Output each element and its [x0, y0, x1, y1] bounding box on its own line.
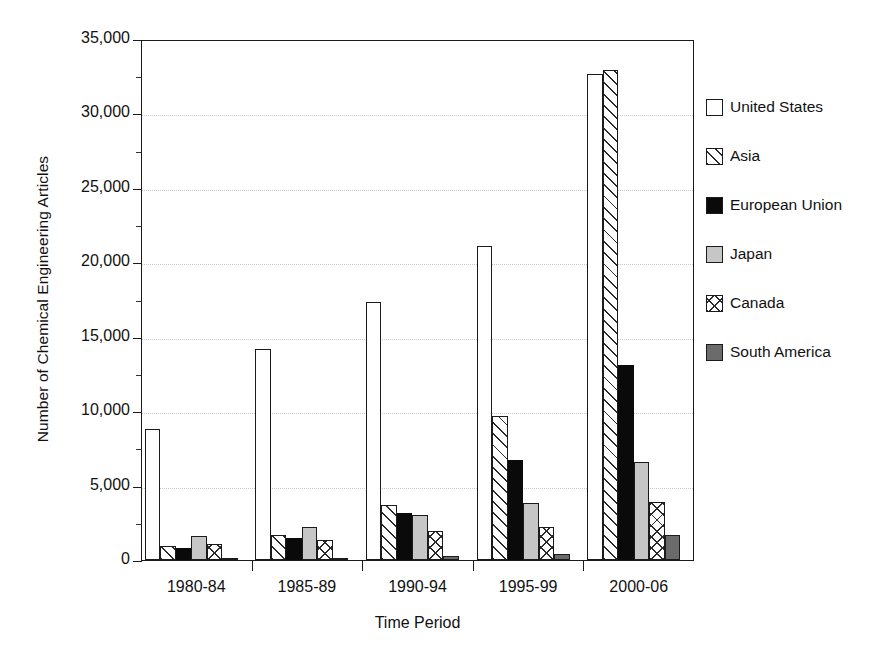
bar-japan-1985-89[interactable] [302, 527, 318, 560]
legend-label: Asia [730, 147, 760, 165]
bar-asia-1985-89[interactable] [271, 535, 287, 560]
y-axis-tick-label: 5,000 [90, 476, 130, 494]
x-axis-tick-label: 2000-06 [569, 578, 709, 596]
y-axis-tick-label: 10,000 [81, 401, 130, 419]
legend-label: Japan [730, 245, 772, 263]
bar-european-union-1985-89[interactable] [286, 538, 302, 560]
bar-european-union-1990-94[interactable] [397, 513, 413, 560]
bar-united-states-1980-84[interactable] [145, 429, 161, 560]
chart-legend: United StatesAsiaEuropean UnionJapanCana… [706, 96, 842, 390]
bar-european-union-1995-99[interactable] [508, 460, 524, 560]
x-axis-tick [473, 561, 474, 571]
legend-item-united-states[interactable]: United States [706, 96, 842, 118]
bar-japan-1995-99[interactable] [523, 503, 539, 560]
legend-swatch-asia-icon [706, 148, 723, 165]
bar-south-america-1990-94[interactable] [443, 556, 459, 560]
bar-european-union-1980-84[interactable] [176, 548, 192, 560]
x-axis-tick [583, 561, 584, 571]
plot-area [141, 40, 694, 561]
x-axis-tick [252, 561, 253, 571]
legend-swatch-south-america-icon [706, 344, 723, 361]
bar-canada-1990-94[interactable] [428, 531, 444, 560]
bar-united-states-1995-99[interactable] [477, 246, 493, 560]
bar-group-1980-84 [142, 41, 253, 560]
legend-swatch-united-states-icon [706, 99, 723, 116]
bar-group-2000-06 [584, 41, 695, 560]
bar-united-states-1985-89[interactable] [255, 349, 271, 560]
chart-page: Number of Chemical Engineering Articles … [0, 0, 878, 656]
y-axis-tick-label: 0 [121, 550, 130, 568]
bar-european-union-2000-06[interactable] [618, 365, 634, 560]
bar-united-states-2000-06[interactable] [587, 74, 603, 560]
legend-label: Canada [730, 294, 784, 312]
bar-group-1990-94 [363, 41, 474, 560]
legend-swatch-european-union-icon [706, 197, 723, 214]
bar-canada-1985-89[interactable] [317, 540, 333, 560]
legend-item-european-union[interactable]: European Union [706, 194, 842, 216]
y-axis-tick-label: 20,000 [81, 252, 130, 270]
legend-label: United States [730, 98, 823, 116]
y-axis-tick-label: 30,000 [81, 103, 130, 121]
bar-united-states-1990-94[interactable] [366, 302, 382, 560]
bar-asia-1990-94[interactable] [381, 505, 397, 560]
legend-swatch-canada-icon [706, 295, 723, 312]
bar-south-america-2000-06[interactable] [665, 535, 681, 560]
y-axis-title: Number of Chemical Engineering Articles [34, 84, 52, 514]
bar-south-america-1995-99[interactable] [554, 554, 570, 560]
x-axis-tick [362, 561, 363, 571]
bar-group-1995-99 [474, 41, 585, 560]
bar-canada-1980-84[interactable] [207, 544, 223, 560]
bar-south-america-1985-89[interactable] [333, 558, 349, 560]
y-axis-tick [133, 561, 142, 562]
bar-japan-1980-84[interactable] [191, 536, 207, 560]
legend-item-japan[interactable]: Japan [706, 243, 842, 265]
bar-group-1985-89 [253, 41, 364, 560]
bar-asia-1980-84[interactable] [160, 546, 176, 560]
bar-japan-2000-06[interactable] [634, 462, 650, 560]
legend-label: European Union [730, 196, 842, 214]
bar-asia-1995-99[interactable] [492, 416, 508, 560]
y-axis-tick-label: 25,000 [81, 178, 130, 196]
legend-label: South America [730, 343, 831, 361]
legend-swatch-japan-icon [706, 246, 723, 263]
bar-japan-1990-94[interactable] [412, 515, 428, 560]
legend-item-south-america[interactable]: South America [706, 341, 842, 363]
legend-item-asia[interactable]: Asia [706, 145, 842, 167]
y-axis-tick-label: 35,000 [81, 29, 130, 47]
bar-canada-1995-99[interactable] [539, 527, 555, 560]
y-axis-tick-label: 15,000 [81, 327, 130, 345]
bar-south-america-1980-84[interactable] [222, 558, 238, 560]
legend-item-canada[interactable]: Canada [706, 292, 842, 314]
bar-canada-2000-06[interactable] [649, 502, 665, 560]
x-axis-title: Time Period [141, 614, 694, 632]
bar-asia-2000-06[interactable] [603, 70, 619, 560]
